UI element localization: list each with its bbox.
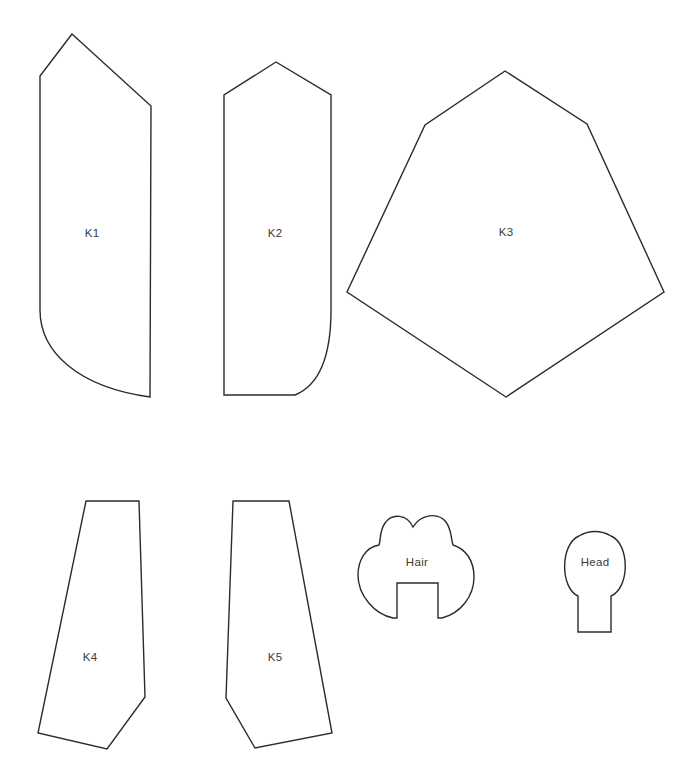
pattern-piece-k2[interactable]: K2 <box>224 62 331 395</box>
piece-outline-head[interactable] <box>565 532 626 633</box>
piece-label-head: Head <box>581 556 610 568</box>
pattern-piece-k5[interactable]: K5 <box>226 501 332 748</box>
pattern-canvas: K1 K2 K3 K4 K5 Hair Head <box>0 0 683 779</box>
piece-outline-k4[interactable] <box>38 501 145 749</box>
pattern-piece-head[interactable]: Head <box>565 532 626 633</box>
pattern-piece-k1[interactable]: K1 <box>40 34 151 397</box>
pattern-piece-hair[interactable]: Hair <box>358 516 474 618</box>
piece-label-k4: K4 <box>83 651 98 663</box>
piece-label-k5: K5 <box>268 651 283 663</box>
piece-label-hair: Hair <box>406 556 428 568</box>
pattern-piece-k3[interactable]: K3 <box>347 71 664 397</box>
piece-label-k3: K3 <box>499 226 514 238</box>
piece-outline-k5[interactable] <box>226 501 332 748</box>
pattern-sheet: K1 K2 K3 K4 K5 Hair Head <box>0 0 683 779</box>
pattern-piece-k4[interactable]: K4 <box>38 501 145 749</box>
piece-outline-k1[interactable] <box>40 34 151 397</box>
piece-label-k1: K1 <box>85 227 100 239</box>
piece-label-k2: K2 <box>268 227 283 239</box>
